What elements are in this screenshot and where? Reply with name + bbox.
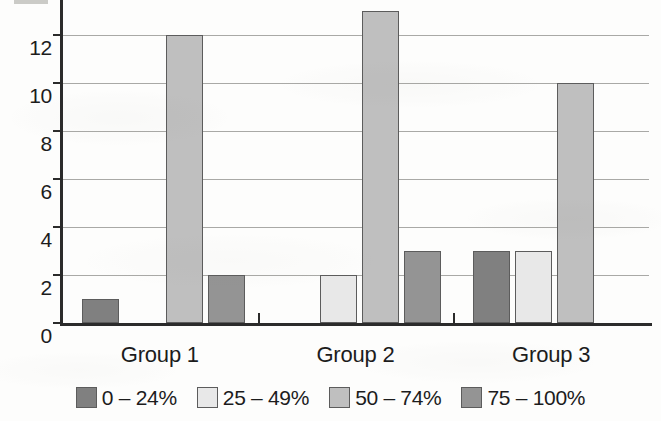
y-tick-label: 6 <box>6 181 52 202</box>
bar <box>473 251 510 323</box>
legend-swatch-icon <box>461 387 482 408</box>
y-tick-mark <box>53 178 62 180</box>
x-axis-separator-tick <box>258 313 260 323</box>
legend-item-label: 50 – 74% <box>355 387 441 408</box>
y-tick-label: 2 <box>6 277 52 298</box>
y-tick-mark <box>53 82 62 84</box>
legend-swatch-icon <box>197 387 218 408</box>
chart-legend: 0 – 24%25 – 49%50 – 74%75 – 100% <box>0 380 661 414</box>
legend-item-label: 0 – 24% <box>102 387 177 408</box>
x-axis-category-label: Group 2 <box>258 338 454 372</box>
legend-item-label: 25 – 49% <box>223 387 309 408</box>
x-axis-line <box>60 323 652 326</box>
plot-area <box>62 0 649 323</box>
bar <box>404 251 441 323</box>
legend-item[interactable]: 50 – 74% <box>329 387 441 408</box>
y-tick-label: 10 <box>6 85 52 106</box>
y-tick-label: 0 <box>6 325 52 346</box>
y-tick-mark <box>53 274 62 276</box>
y-axis-tick-labels: 02468101214 <box>0 0 52 336</box>
x-axis-category-label: Group 3 <box>453 338 649 372</box>
legend-swatch-icon <box>76 387 97 408</box>
bar <box>515 251 552 323</box>
bar <box>320 275 357 323</box>
bar <box>166 35 203 323</box>
y-tick-label: 4 <box>6 229 52 250</box>
legend-item[interactable]: 75 – 100% <box>461 387 585 408</box>
bar <box>82 299 119 323</box>
bar-chart-figure: 02468101214 Group 1Group 2Group 3 0 – 24… <box>0 0 661 421</box>
bar <box>362 11 399 323</box>
legend-item-label: 75 – 100% <box>487 387 585 408</box>
x-axis-category-label: Group 1 <box>62 338 258 372</box>
legend-item[interactable]: 0 – 24% <box>76 387 177 408</box>
bar <box>208 275 245 323</box>
legend-item[interactable]: 25 – 49% <box>197 387 309 408</box>
y-tick-label: 12 <box>6 37 52 58</box>
y-tick-mark <box>53 130 62 132</box>
x-axis-category-labels: Group 1Group 2Group 3 <box>62 338 649 372</box>
legend-swatch-icon <box>329 387 350 408</box>
y-tick-mark <box>53 34 62 36</box>
y-tick-label: 8 <box>6 133 52 154</box>
x-axis-separator-tick <box>453 313 455 323</box>
y-tick-mark <box>53 226 62 228</box>
y-tick-mark <box>53 322 62 324</box>
bar <box>557 83 594 323</box>
gridline <box>62 35 649 36</box>
